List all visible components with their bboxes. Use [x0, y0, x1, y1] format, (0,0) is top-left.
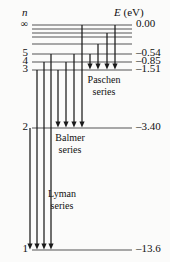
series-word: series: [76, 86, 132, 98]
series-label-balmer: Balmerseries: [42, 132, 98, 155]
energy-value-13.6: –13.6: [136, 242, 161, 254]
transition-arrow-head: [104, 64, 109, 70]
series-name: Balmer: [42, 132, 98, 144]
transition-arrow: [95, 44, 100, 70]
transition-arrow: [55, 70, 60, 128]
transition-arrow: [34, 70, 39, 250]
series-word: series: [42, 144, 98, 156]
transition-arrow-head: [79, 122, 84, 128]
level-number-3: 3: [12, 62, 28, 74]
quantum-number-axis-label: n: [22, 6, 28, 18]
transition-arrow-head: [55, 122, 60, 128]
transition-arrow-head: [48, 244, 53, 250]
transition-arrow-head: [63, 122, 68, 128]
level-number-infinity: ∞: [12, 18, 28, 29]
transition-arrow: [27, 128, 32, 250]
transition-arrow-head: [27, 244, 32, 250]
transition-arrow: [63, 62, 68, 128]
transition-arrow-head: [71, 122, 76, 128]
energy-value-0.00: 0.00: [136, 17, 155, 29]
transition-arrow: [104, 33, 109, 70]
transition-arrow-head: [112, 64, 117, 70]
energy-symbol: E: [114, 6, 121, 18]
level-number-2: 2: [12, 120, 28, 132]
level-number-1: 1: [12, 242, 28, 254]
series-name: Paschen: [76, 74, 132, 86]
transition-arrow-head: [87, 64, 92, 70]
series-word: series: [34, 200, 90, 212]
transition-arrow: [112, 25, 117, 70]
series-name: Lyman: [34, 188, 90, 200]
hydrogen-energy-level-diagram: n E (eV) ∞54321 0.00–0.54–0.85–1.51–3.40…: [0, 0, 170, 262]
transition-arrow-head: [34, 244, 39, 250]
energy-value-1.51: –1.51: [136, 62, 161, 74]
transition-arrow-head: [95, 64, 100, 70]
transition-arrow: [41, 62, 46, 250]
series-label-paschen: Paschenseries: [76, 74, 132, 97]
energy-value-3.40: –3.40: [136, 120, 161, 132]
transition-arrow-head: [41, 244, 46, 250]
series-label-lyman: Lymanseries: [34, 188, 90, 211]
